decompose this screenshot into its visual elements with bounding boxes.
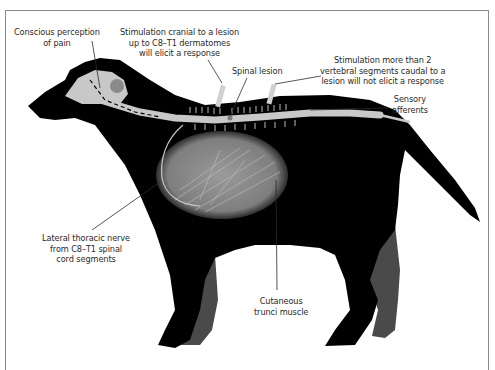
- label-sensory-afferents: Sensory afferents: [392, 94, 428, 115]
- label-conscious-perception: Conscious perception of pain: [14, 27, 100, 48]
- leader-stimulation-cranial: [208, 60, 222, 83]
- label-stimulation-caudal: Stimulation more than 2 vertebral segmen…: [320, 55, 445, 87]
- spinal-lesion-mark: [228, 116, 233, 121]
- label-spinal-lesion: Spinal lesion: [232, 66, 283, 77]
- leader-stimulation-caudal: [275, 76, 321, 84]
- label-cutaneous-trunci: Cutaneous trunci muscle: [254, 296, 308, 317]
- brainstem-nucleus: [110, 79, 124, 93]
- label-lateral-thoracic-nerve: Lateral thoracic nerve from C8–T1 spinal…: [42, 233, 130, 265]
- cutaneous-trunci-muscle: [156, 131, 288, 219]
- label-stimulation-cranial: Stimulation cranial to a lesion up to C8…: [120, 27, 239, 59]
